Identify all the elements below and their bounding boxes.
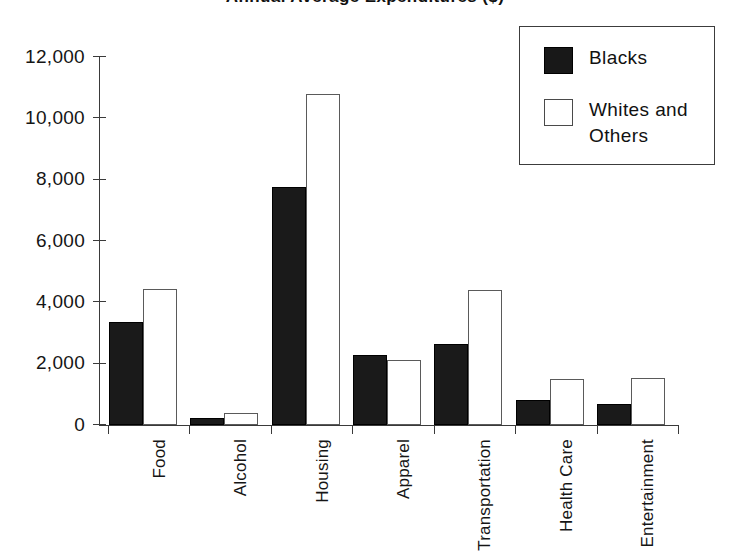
legend: Blacks Whites and Others (519, 26, 715, 165)
bar-housing-blacks (272, 187, 306, 425)
legend-entry-whites-and-others: Whites and Others (544, 97, 709, 149)
x-axis-tick (189, 425, 190, 434)
x-axis-line (99, 425, 678, 426)
y-axis-tick-label: 12,000 (25, 46, 85, 68)
y-axis-tick: 8,000 (93, 179, 106, 180)
legend-label-blacks: Blacks (589, 45, 647, 71)
x-axis-tick (515, 425, 516, 434)
x-axis-tick (597, 425, 598, 434)
bar-apparel-blacks (353, 355, 387, 425)
x-axis-tick (434, 425, 435, 434)
y-axis-tick: 10,000 (93, 117, 106, 118)
y-axis-line (99, 57, 100, 425)
x-axis-label-entertainment: Entertainment (638, 439, 658, 547)
bar-apparel-whites-and-others (387, 360, 421, 425)
bar-alcohol-blacks (190, 418, 224, 425)
bar-alcohol-whites-and-others (224, 413, 258, 425)
chart-title: Annual Average Expenditures ($) (0, 0, 730, 7)
legend-label-whites-and-others: Whites and Others (589, 97, 709, 149)
y-axis-tick-label: 0 (74, 414, 85, 436)
legend-swatch-filled-square-icon (544, 47, 573, 74)
y-axis-tick-label: 10,000 (25, 107, 85, 129)
bar-transportation-blacks (434, 344, 468, 425)
bar-entertainment-whites-and-others (631, 378, 665, 425)
legend-swatch-empty-square-icon (544, 99, 573, 126)
bar-food-blacks (109, 322, 143, 425)
bar-chart: Annual Average Expenditures ($) 02,0004,… (0, 0, 730, 560)
y-axis-tick-label: 6,000 (36, 230, 85, 252)
y-axis-tick: 6,000 (93, 240, 106, 241)
bar-housing-whites-and-others (306, 94, 340, 425)
y-axis-tick-label: 2,000 (36, 352, 85, 374)
bar-health-care-whites-and-others (550, 379, 584, 425)
bar-food-whites-and-others (143, 289, 177, 425)
legend-entry-blacks: Blacks (544, 45, 647, 74)
y-axis-tick: 12,000 (93, 56, 106, 57)
x-axis-tick (108, 425, 109, 434)
x-axis-label-food: Food (150, 439, 170, 479)
x-axis-label-housing: Housing (313, 439, 333, 503)
x-axis-tick (271, 425, 272, 434)
x-axis-label-transportation: Transportation (475, 439, 495, 551)
x-axis-label-apparel: Apparel (394, 439, 414, 499)
x-axis-tick (678, 425, 679, 434)
y-axis-tick-label: 8,000 (36, 168, 85, 190)
y-axis-tick: 2,000 (93, 363, 106, 364)
y-axis-tick: 4,000 (93, 301, 106, 302)
x-axis-label-health-care: Health Care (557, 439, 577, 532)
bar-entertainment-blacks (597, 404, 631, 425)
bar-transportation-whites-and-others (468, 290, 502, 425)
y-axis-tick: 0 (93, 424, 106, 425)
x-axis-tick (352, 425, 353, 434)
bar-health-care-blacks (516, 400, 550, 425)
y-axis-tick-label: 4,000 (36, 291, 85, 313)
x-axis-label-alcohol: Alcohol (231, 439, 251, 496)
